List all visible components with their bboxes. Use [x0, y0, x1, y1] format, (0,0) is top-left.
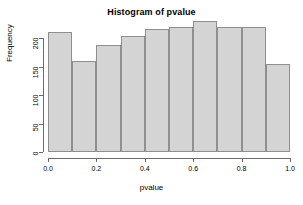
y-axis-line	[43, 38, 44, 152]
x-axis-tick-mark	[242, 158, 243, 162]
y-axis-tick-label: 0	[33, 152, 40, 156]
x-axis-tick-label: 0.6	[181, 165, 205, 172]
plot-area	[48, 28, 290, 152]
page-title: Histogram of pvalue	[0, 7, 303, 17]
y-axis-tick-mark	[39, 152, 43, 153]
histogram-bar	[169, 27, 193, 152]
x-axis-tick-label: 1.0	[278, 165, 302, 172]
x-axis-tick-label: 0.2	[84, 165, 108, 172]
histogram-bar	[72, 61, 96, 152]
histogram-bar	[217, 27, 241, 152]
histogram-screenshot: Histogram of pvalue Frequency 0501001502…	[0, 0, 303, 205]
x-axis-tick-label: 0.4	[133, 165, 157, 172]
histogram-bar	[145, 29, 169, 152]
x-axis-tick-mark	[290, 158, 291, 162]
histogram-bar	[242, 27, 266, 152]
x-axis-tick-mark	[96, 158, 97, 162]
histogram-bar	[121, 36, 145, 152]
x-axis-title: pvalue	[0, 183, 303, 192]
x-axis-tick-label: 0.8	[230, 165, 254, 172]
x-axis-tick-mark	[145, 158, 146, 162]
y-axis-tick-mark	[39, 95, 43, 96]
y-axis-title: Frequency	[5, 50, 14, 62]
x-axis-line	[48, 158, 290, 159]
histogram-bar	[96, 45, 120, 152]
histogram-bar	[193, 21, 217, 152]
y-axis-tick-mark	[39, 67, 43, 68]
histogram-bar	[48, 32, 72, 152]
y-axis-tick-mark	[39, 38, 43, 39]
y-axis-tick-label: 200	[33, 38, 40, 50]
y-axis-tick-label: 50	[33, 123, 40, 131]
x-axis-tick-mark	[193, 158, 194, 162]
y-axis-tick-mark	[39, 124, 43, 125]
histogram-bar	[266, 64, 290, 152]
x-axis-tick-mark	[48, 158, 49, 162]
x-axis-tick-label: 0.0	[36, 165, 60, 172]
y-axis-tick-label: 150	[33, 66, 40, 78]
y-axis-tick-label: 100	[33, 95, 40, 107]
